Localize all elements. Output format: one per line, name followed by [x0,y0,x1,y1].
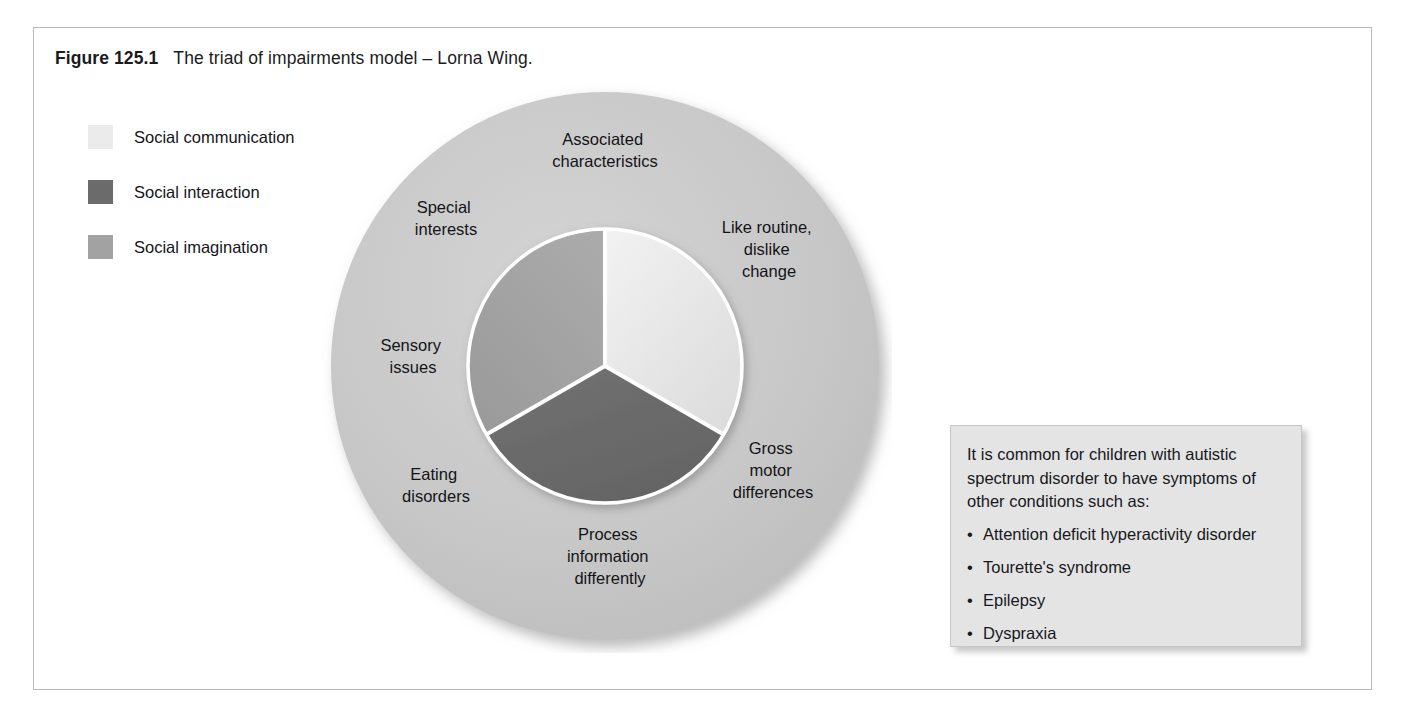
legend-item-social-interaction: Social interaction [88,179,348,205]
legend-label-social-interaction: Social interaction [134,183,260,202]
callout-list-item: Epilepsy [967,589,1285,612]
legend-item-social-imagination: Social imagination [88,234,348,260]
callout-list-item: Dyspraxia [967,622,1285,645]
legend: Social communication Social interaction … [88,124,348,289]
callout-intro-text: It is common for children with autistic … [967,443,1285,514]
legend-swatch-social-communication [88,125,113,149]
legend-swatch-social-imagination [88,235,113,259]
figure-page: Figure 125.1The triad of impairments mod… [0,0,1404,716]
figure-caption-text: The triad of impairments model – Lorna W… [173,48,532,68]
figure-caption-label: Figure 125.1 [55,48,158,68]
triad-diagram: Associated characteristics Like routine,… [318,79,892,653]
legend-label-social-imagination: Social imagination [134,238,268,257]
legend-swatch-social-interaction [88,180,113,204]
callout-list-item: Attention deficit hyperactivity disorder [967,523,1285,546]
legend-item-social-communication: Social communication [88,124,348,150]
ring-label-process-information-differently: Process information differently [567,525,653,587]
callout-list-item: Tourette's syndrome [967,556,1285,579]
inner-pie [468,229,742,503]
callout-box: It is common for children with autistic … [950,425,1302,647]
callout-list: Attention deficit hyperactivity disorder… [967,523,1285,645]
figure-caption: Figure 125.1The triad of impairments mod… [55,48,533,69]
legend-label-social-communication: Social communication [134,128,295,147]
